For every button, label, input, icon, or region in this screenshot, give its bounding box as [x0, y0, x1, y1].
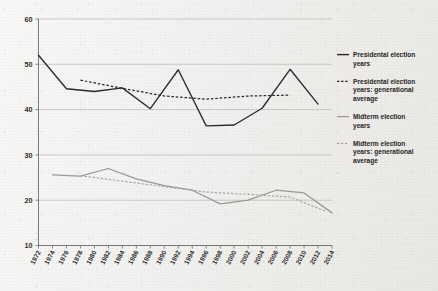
- series-line: [39, 55, 319, 126]
- x-tick-label: 1972: [29, 249, 42, 266]
- x-tick-label: 1976: [57, 249, 70, 266]
- x-tick-label: 1986: [127, 249, 140, 266]
- y-tick-label: 10: [25, 241, 33, 250]
- x-tick-label: 1982: [99, 249, 112, 266]
- legend-item-label[interactable]: Midterm electionyears: [353, 113, 405, 130]
- y-tick-label: 50: [25, 60, 33, 69]
- y-tick-label: 60: [25, 15, 33, 24]
- y-tick-label: 30: [25, 151, 33, 160]
- legend-item-label[interactable]: Presidental electionyears: [353, 51, 415, 68]
- line-chart: 102030405060 197219741976197819801982198…: [0, 0, 438, 291]
- x-tick-label: 1998: [210, 249, 223, 266]
- x-tick-label: 2002: [238, 249, 251, 266]
- data-series-group: [39, 55, 333, 213]
- x-tick-label: 1980: [85, 249, 98, 266]
- gridlines: [39, 19, 333, 246]
- x-tick-label: 2006: [266, 249, 279, 266]
- x-tick-label: 2014: [322, 249, 335, 266]
- legend-item-label[interactable]: Midterm electionyears: generationalavera…: [353, 140, 414, 165]
- x-tick-label: 1990: [155, 249, 168, 266]
- y-tick-label: 20: [25, 196, 33, 205]
- chart-legend: Presidental electionyearsPresidental ele…: [337, 51, 415, 165]
- y-tick-label: 40: [25, 105, 33, 114]
- x-tick-label: 1992: [168, 249, 181, 266]
- legend-item-label[interactable]: Presidental electionyears: generationala…: [353, 78, 415, 103]
- x-tick-label: 1996: [196, 249, 209, 266]
- series-line: [80, 176, 325, 211]
- x-tick-label: 2004: [252, 249, 265, 266]
- x-tick-label: 2012: [308, 249, 321, 266]
- y-axis-tick-labels: 102030405060: [25, 15, 33, 251]
- x-tick-label: 1988: [141, 249, 154, 266]
- chart-page: 102030405060 197219741976197819801982198…: [0, 0, 438, 291]
- x-tick-label: 2010: [294, 249, 307, 266]
- x-tick-label: 2008: [280, 249, 293, 266]
- x-tick-label: 1974: [43, 249, 56, 266]
- x-tick-label: 1984: [113, 249, 126, 266]
- x-tick-label: 1978: [71, 249, 84, 266]
- x-tick-label: 2000: [224, 249, 237, 266]
- x-axis-tick-labels: 1972197419761978198019821984198619881990…: [29, 249, 336, 266]
- x-tick-label: 1994: [182, 249, 195, 266]
